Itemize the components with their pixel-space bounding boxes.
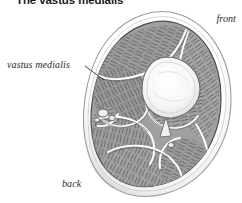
label-vastus-medialis: vastus medialis	[7, 59, 70, 70]
label-front: front	[216, 13, 236, 24]
thigh-cross-section-illustration	[0, 0, 242, 203]
label-back: back	[62, 178, 81, 189]
figure-root: The vastus medialis	[0, 0, 242, 203]
posterior-vessel	[168, 143, 174, 148]
